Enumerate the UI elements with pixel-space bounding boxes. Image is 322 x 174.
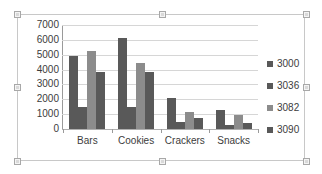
x-axis-category-label: Bars	[63, 135, 112, 147]
x-axis-tick	[258, 129, 259, 133]
bar[interactable]	[176, 122, 185, 129]
legend-swatch-icon	[267, 83, 273, 89]
y-axis-tick-label: 0	[21, 124, 59, 134]
legend-item[interactable]: 3082	[267, 97, 315, 119]
selection-handle-top-right[interactable]	[303, 11, 310, 18]
bar[interactable]	[87, 51, 96, 129]
legend-swatch-icon	[267, 61, 273, 67]
chart-plot-frame[interactable]: 01000200030004000500060007000 BarsCookie…	[17, 14, 305, 161]
bar[interactable]	[96, 72, 105, 129]
bar-group	[161, 25, 210, 129]
y-axis-tick-label: 2000	[21, 94, 59, 104]
x-axis-category-label: Snacks	[209, 135, 258, 147]
bar[interactable]	[216, 110, 225, 129]
legend-swatch-icon	[267, 127, 273, 133]
bar-group	[112, 25, 161, 129]
chart-legend: 3000303630823090	[267, 53, 315, 141]
y-axis-tick-labels: 01000200030004000500060007000	[18, 25, 59, 129]
selection-handle-middle-right[interactable]	[303, 84, 310, 91]
bar[interactable]	[127, 107, 136, 129]
x-axis-category-label: Crackers	[161, 135, 210, 147]
legend-label: 3036	[277, 81, 299, 91]
bar[interactable]	[69, 56, 78, 129]
x-axis-tick	[112, 129, 113, 133]
selection-handle-bottom-right[interactable]	[303, 158, 310, 165]
legend-swatch-icon	[267, 105, 273, 111]
y-axis-tick-label: 3000	[21, 79, 59, 89]
chart-object[interactable]: 01000200030004000500060007000 BarsCookie…	[0, 0, 322, 174]
bar[interactable]	[136, 63, 145, 129]
bar[interactable]	[145, 72, 154, 129]
bar[interactable]	[118, 38, 127, 129]
bar[interactable]	[234, 115, 243, 129]
bar[interactable]	[167, 98, 176, 129]
legend-label: 3082	[277, 103, 299, 113]
selection-handle-top-left[interactable]	[14, 11, 21, 18]
y-axis-tick-label: 7000	[21, 20, 59, 30]
chart-canvas: 01000200030004000500060007000 BarsCookie…	[18, 15, 304, 160]
y-axis-tick-label: 5000	[21, 50, 59, 60]
x-axis-tick	[209, 129, 210, 133]
legend-label: 3090	[277, 125, 299, 135]
selection-handle-top-center[interactable]	[159, 11, 166, 18]
y-axis-tick-label: 6000	[21, 35, 59, 45]
x-axis-category-label: Cookies	[112, 135, 161, 147]
legend-label: 3000	[277, 59, 299, 69]
selection-handle-bottom-center[interactable]	[159, 158, 166, 165]
bar[interactable]	[194, 118, 203, 129]
y-axis-tick-label: 4000	[21, 65, 59, 75]
y-axis-tick-label: 1000	[21, 109, 59, 119]
selection-handle-bottom-left[interactable]	[14, 158, 21, 165]
x-axis-tick	[161, 129, 162, 133]
legend-item[interactable]: 3000	[267, 53, 315, 75]
bar-group	[63, 25, 112, 129]
x-axis-category-labels: BarsCookiesCrackersSnacks	[63, 135, 258, 147]
bar[interactable]	[185, 112, 194, 129]
x-axis-ticks	[63, 129, 258, 133]
bar[interactable]	[78, 107, 87, 129]
x-axis-tick	[63, 129, 64, 133]
selection-handle-middle-left[interactable]	[14, 84, 21, 91]
bar-group	[209, 25, 258, 129]
legend-item[interactable]: 3090	[267, 119, 315, 141]
bar-series-layer	[63, 25, 258, 129]
